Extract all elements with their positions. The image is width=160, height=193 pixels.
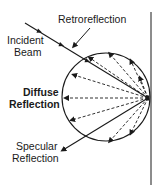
specular-ray (63, 98, 148, 150)
sphere (62, 53, 150, 141)
label-diffuse: Diffuse (23, 86, 59, 98)
label-beam: Beam (14, 46, 42, 58)
label-specular-reflection: Reflection (12, 152, 59, 164)
label-diffuse-reflection: Reflection (9, 98, 60, 110)
label-specular: Specular (16, 140, 58, 152)
label-retroreflection: Retroreflection (58, 13, 126, 25)
reflection-diagram: Retroreflection Incident Beam Diffuse Re… (0, 0, 160, 193)
retroreflection-pointer (74, 28, 90, 46)
label-incident: Incident (7, 34, 44, 46)
diffuse-rays (66, 54, 148, 141)
